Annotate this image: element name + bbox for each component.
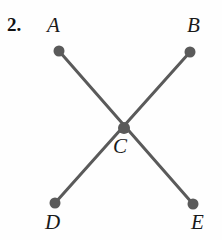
geometry-figure: 2. A B C D E: [0, 0, 222, 240]
vertex-label-c: C: [113, 136, 127, 157]
vertex-dot-b: [185, 47, 196, 58]
vertex-dot-d: [50, 198, 61, 209]
problem-number: 2.: [7, 15, 21, 34]
vertex-dot-c: [118, 122, 130, 134]
vertex-label-a: A: [47, 15, 60, 36]
vertex-label-e: E: [191, 212, 204, 233]
vertex-dot-a: [54, 46, 65, 57]
vertex-label-d: D: [45, 212, 60, 233]
vertex-dot-e: [188, 199, 199, 210]
vertex-label-b: B: [187, 15, 200, 36]
